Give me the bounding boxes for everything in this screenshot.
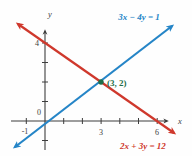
y-tick-label-4: 4 bbox=[35, 39, 39, 48]
x-axis-label: x bbox=[177, 116, 182, 126]
intersection-label: (3, 2) bbox=[107, 78, 127, 88]
origin-label: 0 bbox=[37, 108, 41, 117]
red-equation-label: 2x + 3y = 12 bbox=[119, 141, 166, 151]
x-tick-label-6: 6 bbox=[155, 128, 159, 137]
x-tick-label-minus1: -1 bbox=[22, 127, 29, 136]
blue-equation-label: 3x − 4y = 1 bbox=[117, 12, 160, 22]
red-line-2x-plus-3y-equals-12 bbox=[18, 24, 174, 133]
linear-system-graph: y x -1 0 3 6 4 3x − 4y = 1 2x + 3y = 12 … bbox=[0, 0, 192, 156]
y-axis-label: y bbox=[47, 9, 52, 19]
coordinate-plane-figure: y x -1 0 3 6 4 3x − 4y = 1 2x + 3y = 12 … bbox=[0, 0, 192, 156]
x-tick-label-3: 3 bbox=[99, 128, 103, 137]
intersection-point bbox=[98, 79, 103, 84]
